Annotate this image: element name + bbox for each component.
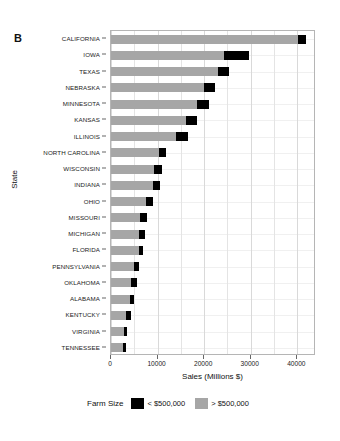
x-axis-tick-label: 0	[108, 360, 112, 367]
legend-swatch-small-farms	[131, 398, 144, 409]
y-axis-tick-label: VIRGINIA	[72, 327, 100, 334]
y-axis-tick-mark	[102, 265, 106, 266]
y-axis-tick-label: KENTUCKY	[66, 311, 101, 318]
bar-segment-small-farms	[146, 197, 153, 206]
x-axis-tick-mark	[250, 355, 251, 359]
y-axis-tick-mark	[102, 314, 106, 315]
y-axis-tick-mark	[102, 216, 106, 217]
x-axis-title: Sales (Millions $)	[110, 372, 315, 381]
x-axis-tick-label: 30000	[241, 360, 259, 367]
y-axis-tick-label: FLORIDA	[72, 246, 100, 253]
bar-row[interactable]	[111, 116, 316, 125]
plot-area	[110, 30, 315, 355]
bar-segment-large-farms	[111, 148, 159, 157]
bar-row[interactable]	[111, 197, 316, 206]
bar-segment-small-farms	[186, 116, 197, 125]
x-axis-tick-mark	[157, 355, 158, 359]
bar-row[interactable]	[111, 67, 316, 76]
bar-segment-large-farms	[111, 278, 131, 287]
bar-row[interactable]	[111, 213, 316, 222]
y-axis-tick-mark	[102, 103, 106, 104]
bar-segment-small-farms	[218, 67, 229, 76]
bar-segment-large-farms	[111, 230, 139, 239]
y-axis-tick-mark	[102, 70, 106, 71]
bar-segment-small-farms	[298, 35, 305, 44]
bar-row[interactable]	[111, 35, 316, 44]
y-axis-tick-label: ALABAMA	[70, 295, 100, 302]
bar-row[interactable]	[111, 148, 316, 157]
bar-segment-large-farms	[111, 132, 176, 141]
bar-row[interactable]	[111, 230, 316, 239]
y-axis-tick-mark	[102, 54, 106, 55]
y-axis-tick-mark	[102, 119, 106, 120]
bar-segment-small-farms	[204, 83, 215, 92]
y-axis-tick-label: TEXAS	[79, 67, 100, 74]
y-axis-tick-label: PENNSYLVANIA	[52, 262, 100, 269]
bar-row[interactable]	[111, 311, 316, 320]
bar-segment-large-farms	[111, 295, 130, 304]
y-axis-tick-label: INDIANA	[74, 181, 100, 188]
bar-segment-small-farms	[139, 230, 145, 239]
x-axis-tick-label: 20000	[194, 360, 212, 367]
x-axis-tick-label: 40000	[287, 360, 305, 367]
bar-segment-small-farms	[154, 165, 162, 174]
bar-segment-large-farms	[111, 262, 134, 271]
y-axis-tick-label: ILLINOIS	[74, 132, 100, 139]
legend-item-1[interactable]: > $500,000	[195, 398, 253, 409]
x-axis-tick-mark	[296, 355, 297, 359]
bar-segment-large-farms	[111, 67, 218, 76]
y-axis-tick-label: OKLAHOMA	[64, 278, 100, 285]
y-axis-tick-mark	[102, 135, 106, 136]
y-axis-tick-label: MISSOURI	[69, 213, 100, 220]
bar-segment-small-farms	[134, 262, 140, 271]
legend-item-0[interactable]: < $500,000	[131, 398, 189, 409]
bar-segment-small-farms	[176, 132, 188, 141]
bar-row[interactable]	[111, 295, 316, 304]
legend: Farm Size < $500,000 > $500,000	[0, 398, 340, 409]
y-axis-tick-mark	[102, 330, 106, 331]
bar-segment-small-farms	[130, 295, 134, 304]
bar-row[interactable]	[111, 51, 316, 60]
bar-series-container	[111, 31, 314, 354]
x-axis-tick-mark	[203, 355, 204, 359]
y-axis-tick-mark	[102, 346, 106, 347]
y-axis-tick-mark	[102, 151, 106, 152]
bar-segment-large-farms	[111, 246, 139, 255]
y-axis-tick-label: OHIO	[84, 197, 100, 204]
bar-row[interactable]	[111, 100, 316, 109]
bar-row[interactable]	[111, 132, 316, 141]
bar-segment-small-farms	[123, 343, 127, 352]
y-axis-tick-label: TENNESSEE	[62, 343, 100, 350]
bar-row[interactable]	[111, 262, 316, 271]
bar-segment-small-farms	[153, 181, 160, 190]
bar-row[interactable]	[111, 181, 316, 190]
x-axis-tick-label: 10000	[147, 360, 165, 367]
y-axis-tick-mark	[102, 281, 106, 282]
bar-segment-large-farms	[111, 197, 146, 206]
legend-label-small-farms: < $500,000	[147, 399, 185, 408]
bar-segment-large-farms	[111, 100, 197, 109]
x-axis-tick-mark	[110, 355, 111, 359]
bar-segment-large-farms	[111, 116, 186, 125]
bar-segment-small-farms	[197, 100, 209, 109]
legend-swatch-large-farms	[195, 398, 208, 409]
legend-label-large-farms: > $500,000	[211, 399, 249, 408]
bar-row[interactable]	[111, 165, 316, 174]
bar-row[interactable]	[111, 83, 316, 92]
y-axis-tick-mark	[102, 168, 106, 169]
y-axis-tick-mark	[102, 200, 106, 201]
bar-segment-small-farms	[126, 311, 130, 320]
bar-row[interactable]	[111, 343, 316, 352]
y-axis-tick-mark	[102, 38, 106, 39]
bar-segment-small-farms	[140, 213, 147, 222]
y-axis-tick-label: MICHIGAN	[68, 230, 100, 237]
bar-row[interactable]	[111, 278, 316, 287]
y-axis-tick-label: MINNESOTA	[63, 100, 100, 107]
bar-segment-large-farms	[111, 181, 153, 190]
y-axis-tick-mark	[102, 249, 106, 250]
bar-row[interactable]	[111, 327, 316, 336]
bar-segment-large-farms	[111, 213, 140, 222]
bar-row[interactable]	[111, 246, 316, 255]
bar-segment-small-farms	[131, 278, 137, 287]
bar-segment-large-farms	[111, 165, 154, 174]
